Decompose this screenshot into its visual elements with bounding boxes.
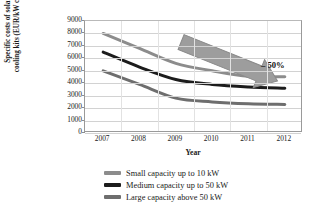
x-axis-tick: 2009 xyxy=(157,134,193,144)
x-axis-title: Year xyxy=(84,148,302,157)
y-axis-tick-labels: 9000800070006000500040003000200010000 xyxy=(44,20,82,132)
x-axis-tick-labels: 200720082009201020112012 xyxy=(84,134,302,148)
category-separator xyxy=(121,21,122,131)
category-separator xyxy=(194,21,195,131)
y-axis-tick: 2000 xyxy=(48,103,82,111)
x-axis-tick: 2008 xyxy=(121,134,157,144)
gridline xyxy=(85,121,301,122)
legend-label: Large capacity above 50 kW xyxy=(126,192,222,203)
legend-item[interactable]: Large capacity above 50 kW xyxy=(104,191,324,203)
legend-label: Small capacity up to 10 kW xyxy=(126,168,219,179)
x-axis-tick: 2011 xyxy=(230,134,266,144)
legend-item[interactable]: Medium capacity up to 50 kW xyxy=(104,179,324,191)
chart-figure: Specific costs of solar cooling kits (EU… xyxy=(0,0,331,215)
y-axis-title-line2: cooling kits (EUR/kW cold) xyxy=(13,0,22,90)
x-axis-tick: 2010 xyxy=(193,134,229,144)
gridline xyxy=(85,83,301,84)
x-axis-tick: 2007 xyxy=(84,134,120,144)
category-separator xyxy=(158,21,159,131)
legend-swatch-icon xyxy=(104,171,121,175)
gridline xyxy=(85,46,301,47)
y-axis-tick: 8000 xyxy=(48,28,82,36)
y-axis-tick: 6000 xyxy=(48,53,82,61)
legend-item[interactable]: Small capacity up to 10 kW xyxy=(104,167,324,179)
y-axis-tick: 7000 xyxy=(48,41,82,49)
category-separator xyxy=(230,21,231,131)
category-separator xyxy=(267,21,268,131)
y-axis-tick: 9000 xyxy=(48,16,82,24)
y-axis-title-line1: Specific costs of solar xyxy=(4,0,13,90)
y-axis-tick: 3000 xyxy=(48,91,82,99)
x-axis-tick: 2012 xyxy=(266,134,302,144)
y-axis-tick: 4000 xyxy=(48,78,82,86)
legend-label: Medium capacity up to 50 kW xyxy=(126,180,228,191)
legend-swatch-icon xyxy=(104,195,121,199)
gridline xyxy=(85,71,301,72)
gridline xyxy=(85,33,301,34)
gridline xyxy=(85,96,301,97)
y-axis-title: Specific costs of solar cooling kits (EU… xyxy=(4,0,28,90)
gridline xyxy=(85,108,301,109)
y-axis-tick: 1000 xyxy=(48,116,82,124)
plot-area: – 50% xyxy=(84,20,302,132)
gridline xyxy=(85,58,301,59)
chart-legend: Small capacity up to 10 kWMedium capacit… xyxy=(104,167,324,203)
legend-swatch-icon xyxy=(104,183,121,187)
y-axis-tick: 5000 xyxy=(48,66,82,74)
y-axis-tick: 0 xyxy=(48,128,82,136)
